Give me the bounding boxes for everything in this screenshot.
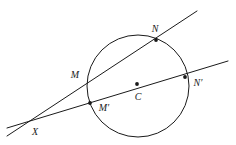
point-label-n: N: [152, 24, 159, 34]
geometry-svg: [0, 0, 236, 145]
point-dot-c: [135, 82, 139, 86]
point-label-n-prime: N′: [194, 78, 203, 88]
point-dot-mp: [88, 101, 92, 105]
point-label-m: M: [71, 70, 79, 80]
point-dot-np: [183, 75, 187, 79]
point-label-c: C: [135, 92, 142, 102]
secant-line-xmpcnp: [7, 61, 228, 128]
point-label-x: X: [32, 127, 38, 137]
point-label-m-prime: M′: [99, 103, 110, 113]
point-dot-n: [154, 38, 158, 42]
secant-line-xmn: [7, 11, 197, 136]
geometry-figure: N M M′ C N′ X: [0, 0, 236, 145]
